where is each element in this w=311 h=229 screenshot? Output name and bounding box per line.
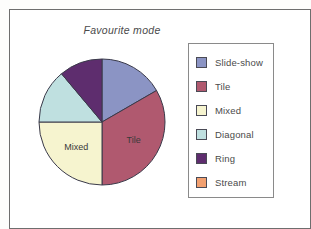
legend-label: Slide-show — [215, 57, 263, 68]
legend-label: Mixed — [215, 105, 241, 116]
pie-slice-label-tile: Tile — [127, 135, 141, 145]
legend-item-slide-show[interactable]: Slide-show — [189, 50, 273, 74]
legend-label: Diagonal — [215, 129, 254, 140]
legend-swatch-mixed — [196, 105, 207, 116]
pie-slice-group — [39, 59, 165, 185]
legend-item-mixed[interactable]: Mixed — [189, 98, 273, 122]
legend-label: Ring — [215, 153, 235, 164]
legend-label: Stream — [215, 177, 247, 188]
figure-frame: Favourite mode TileMixed Slide-showTileM… — [9, 9, 290, 216]
legend-item-stream[interactable]: Stream — [189, 170, 273, 194]
legend-swatch-diagonal — [196, 129, 207, 140]
legend-swatch-ring — [196, 153, 207, 164]
legend-item-diagonal[interactable]: Diagonal — [189, 122, 273, 146]
legend-box: Slide-showTileMixedDiagonalRingStream — [188, 43, 274, 198]
pie-chart-plot-area: TileMixed — [38, 58, 166, 186]
legend-item-ring[interactable]: Ring — [189, 146, 273, 170]
legend-swatch-slide-show — [196, 57, 207, 68]
pie-slice-mixed[interactable] — [39, 122, 102, 185]
pie-slice-label-mixed: Mixed — [64, 142, 88, 152]
legend-swatch-stream — [196, 177, 207, 188]
chart-figure: Favourite mode TileMixed Slide-showTileM… — [0, 0, 290, 216]
pie-chart-svg: TileMixed — [38, 58, 166, 186]
chart-title: Favourite mode — [10, 24, 290, 36]
legend-item-tile[interactable]: Tile — [189, 74, 273, 98]
legend-swatch-tile — [196, 81, 207, 92]
legend-label: Tile — [215, 81, 231, 92]
